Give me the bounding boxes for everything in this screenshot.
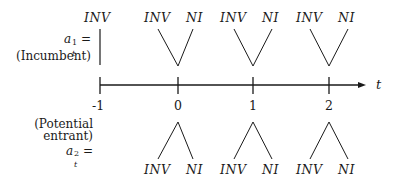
- entrant-p0-right: NI: [186, 162, 203, 177]
- entrant-sub: t: [74, 159, 77, 171]
- incumbent-branches: [158, 29, 348, 66]
- tick-label-1: 1: [249, 98, 257, 113]
- entrant-p2-left: INV: [296, 162, 322, 177]
- incumbent-p2-left: INV: [296, 10, 322, 25]
- incumbent-p1-right: NI: [262, 10, 279, 25]
- entrant-role-line2: entrant): [34, 130, 93, 142]
- incumbent-eq: =: [81, 32, 91, 46]
- incumbent-initial-action: INV: [84, 10, 110, 25]
- incumbent-role: (Incumbent): [16, 49, 91, 63]
- entrant-symbol: a: [66, 145, 73, 157]
- incumbent-p0-right: NI: [186, 10, 203, 25]
- incumbent-p2-right: NI: [338, 10, 355, 25]
- axis-label-t: t: [376, 77, 382, 92]
- entrant-p1-right: NI: [262, 162, 279, 177]
- entrant-p1-left: INV: [220, 162, 246, 177]
- tick-label-minus1: -1: [92, 98, 104, 113]
- entrant-branches: [158, 122, 348, 159]
- diagram-lines: [0, 0, 399, 185]
- incumbent-p1-left: INV: [220, 10, 246, 25]
- entrant-eq: =: [83, 144, 93, 158]
- incumbent-symbol: a: [64, 32, 71, 46]
- incumbent-sub: t: [72, 47, 75, 61]
- entrant-p2-right: NI: [338, 162, 355, 177]
- incumbent-p0-left: INV: [144, 10, 170, 25]
- tick-label-0: 0: [174, 98, 182, 113]
- tick-label-2: 2: [325, 98, 333, 113]
- axis-arrowhead-icon: [358, 82, 366, 88]
- incumbent-label: a1t = (Incumbent): [16, 32, 91, 63]
- entrant-label: (Potential entrant) a2t =: [34, 118, 93, 157]
- entrant-p0-left: INV: [144, 162, 170, 177]
